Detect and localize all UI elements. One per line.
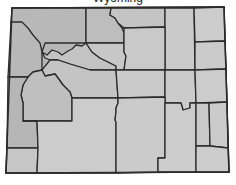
county-laramie[interactable] [196, 146, 229, 172]
county-niobrara[interactable] [195, 69, 227, 103]
county-platte[interactable] [196, 103, 210, 146]
county-goshen[interactable] [209, 102, 228, 148]
county-johnson[interactable] [124, 27, 165, 70]
county-uinta[interactable] [6, 148, 38, 173]
county-map [0, 0, 236, 185]
county-weston[interactable] [195, 41, 226, 70]
county-natrona[interactable] [116, 70, 165, 98]
county-campbell[interactable] [165, 8, 195, 70]
county-crook[interactable] [194, 7, 225, 42]
